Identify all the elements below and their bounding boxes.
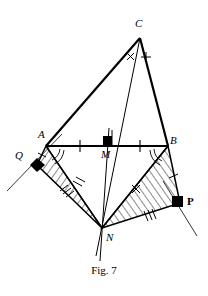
right-angle-marker-P [172, 196, 183, 207]
ray-through-P [163, 181, 197, 236]
figure-caption: Fig. 7 [0, 264, 208, 276]
segment-CA [46, 38, 140, 146]
angle-mark-cross-at-C [127, 53, 134, 60]
tick-marks-AN [73, 177, 85, 186]
vertex-label-N: N [106, 232, 113, 243]
vertex-label-P: P [187, 196, 194, 207]
angle-mark-plus-at-C [141, 52, 151, 62]
vertex-label-M: M [101, 149, 110, 160]
vertex-label-B: B [170, 135, 177, 146]
geometry-figure: C A B M N P Q Fig. 7 [0, 0, 208, 296]
segment-CB [140, 38, 168, 146]
vertex-label-Q: Q [15, 150, 23, 161]
vertex-label-A: A [38, 129, 45, 140]
right-angle-marker-M [103, 136, 112, 145]
vertex-label-C: C [135, 18, 142, 29]
